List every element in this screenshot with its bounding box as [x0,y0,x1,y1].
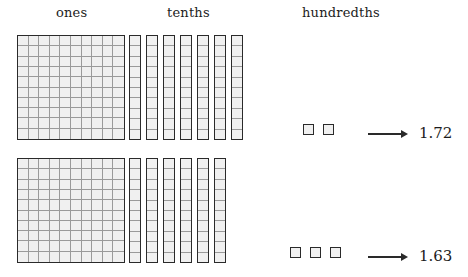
tenths-unit-cell [232,46,242,56]
tenths-unit-cell [147,78,157,88]
tenths-unit-cell [181,119,191,129]
tenths-unit-cell [181,67,191,77]
ones-unit-cell [103,169,114,179]
tenths-unit-cell [215,130,225,139]
ones-unit-cell [103,231,114,241]
tenths-unit-cell [181,130,191,139]
ones-unit-cell [92,46,103,56]
hundredths-unit-square [330,247,341,258]
tenths-unit-cell [232,98,242,108]
ones-unit-cell [82,67,93,77]
ones-unit-cell [18,159,29,169]
tenths-unit-cell [215,211,225,221]
ones-unit-cell [50,200,61,210]
tenths-unit-cell [181,169,191,179]
ones-unit-cell [82,159,93,169]
tenths-unit-cell [147,221,157,231]
ones-unit-cell [29,46,40,56]
ones-unit-cell [71,77,82,87]
arrow-shaft [368,133,402,134]
ones-unit-cell [82,190,93,200]
tenths-unit-cell [198,242,208,252]
tenths-unit-cell [130,211,140,221]
ones-unit-cell [18,57,29,67]
ones-unit-cell [29,67,40,77]
ones-unit-cell [29,36,40,46]
ones-unit-cell [113,88,124,98]
tenths-unit-cell [147,46,157,56]
ones-unit-cell [92,57,103,67]
ones-unit-cell [29,57,40,67]
tenths-unit-cell [215,88,225,98]
ones-unit-cell [18,200,29,210]
ones-unit-cell [103,190,114,200]
ones-unit-cell [82,169,93,179]
tenths-unit-cell [147,119,157,129]
column-label-ones: ones [56,5,87,20]
ones-unit-cell [60,129,71,139]
tenths-unit-cell [198,78,208,88]
tenths-unit-cell [198,119,208,129]
tenths-rod [146,35,158,140]
tenths-unit-cell [130,253,140,262]
ones-unit-cell [92,88,103,98]
value-row-1: 1.72 [419,124,452,142]
ones-unit-cell [18,252,29,262]
ones-unit-cell [113,180,124,190]
ones-unit-cell [82,108,93,118]
tenths-unit-cell [130,159,140,169]
ones-unit-cell [50,241,61,251]
ones-unit-cell [103,211,114,221]
tenths-unit-cell [147,130,157,139]
ones-unit-cell [82,77,93,87]
tenths-unit-cell [130,88,140,98]
tenths-unit-cell [130,119,140,129]
ones-unit-cell [39,200,50,210]
ones-unit-cell [39,57,50,67]
ones-unit-cell [71,36,82,46]
ones-unit-cell [60,67,71,77]
ones-unit-cell [71,88,82,98]
tenths-unit-cell [232,109,242,119]
ones-unit-cell [60,77,71,87]
tenths-unit-cell [198,201,208,211]
ones-unit-cell [60,231,71,241]
ones-unit-cell [18,46,29,56]
place-value-diagram: ones tenths hundredths 1.72 1.63 [0,0,468,277]
ones-unit-cell [29,221,40,231]
ones-unit-cell [92,36,103,46]
ones-unit-cell [39,231,50,241]
ones-unit-cell [71,211,82,221]
ones-unit-cell [71,180,82,190]
ones-unit-cell [29,252,40,262]
tenths-unit-cell [198,221,208,231]
tenths-unit-cell [130,98,140,108]
tenths-rod [129,158,141,263]
ones-unit-cell [113,67,124,77]
tenths-rod [180,35,192,140]
ones-unit-cell [103,98,114,108]
tenths-unit-cell [130,180,140,190]
ones-unit-cell [103,252,114,262]
tenths-unit-cell [181,36,191,46]
tenths-unit-cell [164,57,174,67]
tenths-unit-cell [164,119,174,129]
ones-unit-cell [50,211,61,221]
ones-unit-cell [18,169,29,179]
tenths-unit-cell [215,190,225,200]
ones-unit-cell [82,221,93,231]
ones-unit-cell [50,231,61,241]
tenths-unit-cell [164,67,174,77]
tenths-unit-cell [215,46,225,56]
tenths-rod [163,158,175,263]
tenths-unit-cell [164,190,174,200]
ones-unit-cell [50,252,61,262]
ones-unit-cell [71,46,82,56]
hundredths-units-row-1 [303,124,343,135]
tenths-unit-cell [147,201,157,211]
ones-unit-cell [82,36,93,46]
ones-unit-cell [29,180,40,190]
tenths-unit-cell [232,57,242,67]
tenths-unit-cell [130,242,140,252]
tenths-unit-cell [130,67,140,77]
